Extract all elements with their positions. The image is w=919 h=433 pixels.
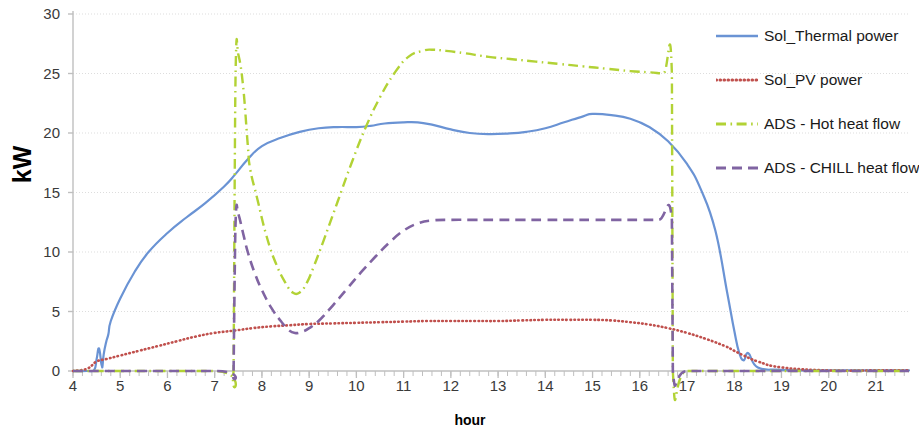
x-axis-title: hour bbox=[380, 412, 560, 428]
legend-swatch-dotted-icon bbox=[716, 73, 758, 87]
legend-swatch-solid-icon bbox=[716, 29, 758, 43]
legend-label: Sol_Thermal power bbox=[764, 27, 898, 45]
legend-label: ADS - Hot heat flow bbox=[764, 115, 900, 133]
y-axis-ticks bbox=[68, 14, 73, 371]
legend-item[interactable]: Sol_Thermal power bbox=[716, 14, 906, 58]
legend-swatch-dashdot-icon bbox=[716, 117, 758, 131]
legend-label: Sol_PV power bbox=[764, 71, 862, 89]
series-line-1 bbox=[73, 320, 909, 371]
legend-item[interactable]: ADS - CHILL heat flow bbox=[716, 146, 906, 190]
series-line-3 bbox=[73, 205, 909, 386]
chart-legend: Sol_Thermal powerSol_PV powerADS - Hot h… bbox=[716, 14, 906, 190]
legend-label: ADS - CHILL heat flow bbox=[764, 159, 919, 177]
legend-swatch-dashed-icon bbox=[716, 161, 758, 175]
legend-item[interactable]: ADS - Hot heat flow bbox=[716, 102, 906, 146]
legend-item[interactable]: Sol_PV power bbox=[716, 58, 906, 102]
